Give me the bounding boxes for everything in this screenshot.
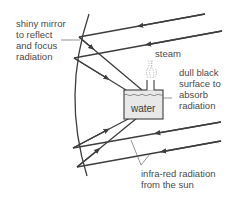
reflected-ray-4: [77, 118, 137, 167]
surface-label: dull black surface to absorb radiation: [179, 67, 221, 111]
incoming-ray-3: [73, 122, 221, 148]
water-label: water: [131, 103, 155, 114]
steam-icon: [147, 60, 157, 78]
reflected-ray-1: [79, 37, 142, 90]
reflected-ray-2: [74, 58, 126, 90]
infrared-leader-lines: [131, 140, 150, 165]
incoming-ray-2: [74, 31, 222, 58]
steam-label: steam: [155, 48, 181, 59]
incoming-ray-4: [77, 141, 221, 167]
infrared-label: infra-red radiation from the sun: [141, 168, 215, 190]
curved-mirror: [75, 14, 89, 176]
incoming-ray-1: [79, 14, 205, 37]
mirror-label: shiny mirror to reflect and focus radiat…: [16, 18, 66, 62]
